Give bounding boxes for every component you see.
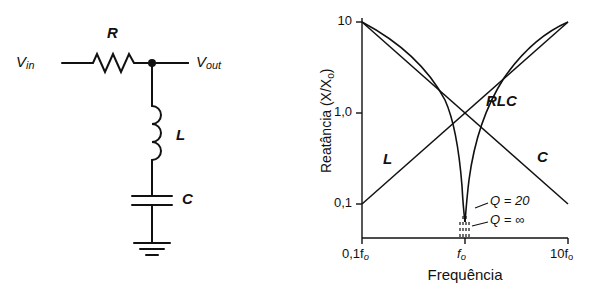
resistor-symbol bbox=[88, 54, 140, 72]
label-vout-sub: out bbox=[206, 59, 221, 71]
x-axis-title: Frequência bbox=[362, 266, 568, 283]
reactance-chart: Reatância (X/Xo) Frequência 10 1,0 0,1 0… bbox=[300, 0, 596, 289]
x-tick-label-fo: fo bbox=[457, 246, 466, 262]
x-tick-label-fo-sub: o bbox=[461, 252, 466, 262]
label-vin: Vin bbox=[16, 53, 34, 71]
label-vout: Vout bbox=[196, 53, 221, 71]
curve-label-RLC: RLC bbox=[486, 92, 517, 109]
x-tick-label-10fo: 10fo bbox=[550, 246, 573, 262]
junction-dot bbox=[148, 59, 156, 67]
y-axis-title-sub: o bbox=[325, 73, 336, 79]
leader-qinf bbox=[472, 222, 488, 226]
curve-label-C: C bbox=[537, 148, 548, 165]
circuit-svg bbox=[0, 0, 300, 289]
y-tick-label-1: 1,0 bbox=[314, 104, 352, 119]
label-capacitor: C bbox=[182, 190, 193, 207]
annotation-q-infinity: Q = ∞ bbox=[490, 212, 524, 227]
x-tick-label-0-1fo-sub: o bbox=[364, 252, 369, 262]
figure-root: Vin Vout R L C bbox=[0, 0, 596, 289]
x-tick-label-10fo-sub: o bbox=[568, 252, 573, 262]
label-resistor: R bbox=[107, 24, 118, 41]
leader-q20 bbox=[475, 203, 488, 208]
curve-RLC-left bbox=[362, 22, 465, 222]
curve-label-L: L bbox=[383, 150, 392, 167]
inductor-symbol bbox=[152, 106, 161, 160]
y-tick-label-10: 10 bbox=[322, 13, 352, 28]
x-tick-label-0-1fo: 0,1fo bbox=[342, 246, 369, 262]
label-inductor: L bbox=[176, 126, 185, 143]
label-vin-sub: in bbox=[26, 59, 34, 71]
y-axis-title: Reatância (X/Xo) bbox=[318, 31, 336, 211]
annotation-q-20: Q = 20 bbox=[490, 193, 529, 208]
curve-RLC-right bbox=[465, 22, 568, 222]
circuit-diagram: Vin Vout R L C bbox=[0, 0, 300, 289]
y-tick-label-0-1: 0,1 bbox=[314, 195, 352, 210]
